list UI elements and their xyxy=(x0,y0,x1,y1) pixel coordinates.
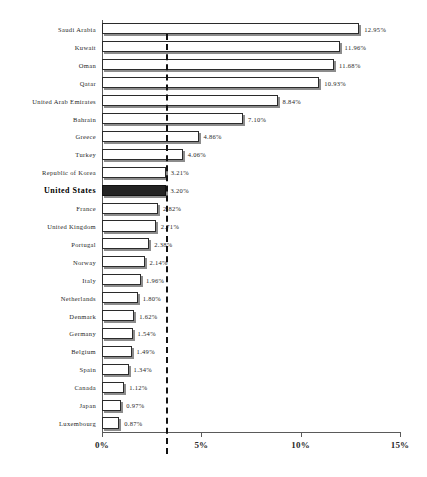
bar-row: Portugal2.38% xyxy=(102,238,400,249)
bar-body xyxy=(102,328,133,339)
bar xyxy=(102,59,334,70)
bar xyxy=(102,23,359,34)
bar xyxy=(102,328,133,339)
bar-body xyxy=(102,203,158,214)
bar-body xyxy=(102,382,124,393)
bar-body xyxy=(102,364,129,375)
bar-value-label: 3.21% xyxy=(171,169,189,176)
category-label: Denmark xyxy=(69,312,96,319)
bar xyxy=(102,400,121,411)
bar-row: Luxembourg0.87% xyxy=(102,417,400,428)
bar xyxy=(102,238,149,249)
bar-body xyxy=(102,238,149,249)
x-axis-tick-label: 15% xyxy=(391,440,410,450)
bar xyxy=(102,220,156,231)
bar-body xyxy=(102,167,166,178)
bar-value-label: 4.06% xyxy=(188,151,206,158)
bar xyxy=(102,185,166,196)
bar xyxy=(102,292,138,303)
bar-value-label: 7.10% xyxy=(248,115,266,122)
bar-value-label: 4.86% xyxy=(204,133,222,140)
bar-body xyxy=(102,23,359,34)
bar-value-label: 1.34% xyxy=(134,366,152,373)
bar xyxy=(102,167,166,178)
bar-value-label: 0.97% xyxy=(126,402,144,409)
bar-row: Japan0.97% xyxy=(102,400,400,411)
bar xyxy=(102,417,119,428)
category-label: Canada xyxy=(74,384,96,391)
category-label: Spain xyxy=(79,366,96,373)
bar-row: Bahrain7.10% xyxy=(102,113,400,124)
bar-body xyxy=(102,77,319,88)
bar-body xyxy=(102,131,199,142)
bar xyxy=(102,382,124,393)
bar-value-label: 11.96% xyxy=(345,43,367,50)
bar-row: Oman11.68% xyxy=(102,59,400,70)
category-label: Belgium xyxy=(71,348,96,355)
bar-body xyxy=(102,59,334,70)
reference-line-dashed xyxy=(166,34,168,454)
category-label: Republic of Korea xyxy=(42,169,96,176)
bar-row: United Kingdom2.71% xyxy=(102,220,400,231)
bar-value-label: 1.49% xyxy=(137,348,155,355)
bar-row: United Arab Emirates8.84% xyxy=(102,95,400,106)
x-axis-line xyxy=(102,432,401,433)
bar-row: Canada1.12% xyxy=(102,382,400,393)
bar-body xyxy=(102,220,156,231)
bar-body xyxy=(102,149,183,160)
x-axis-tick-label: 5% xyxy=(194,440,208,450)
bar-row: Netherlands1.80% xyxy=(102,292,400,303)
bar xyxy=(102,131,199,142)
category-label: France xyxy=(76,205,96,212)
bar-row: United States3.20% xyxy=(102,185,400,196)
bar-row: Germany1.54% xyxy=(102,328,400,339)
bar-row: Kuwait11.96% xyxy=(102,41,400,52)
bar-value-label: 2.71% xyxy=(161,222,179,229)
category-label: Qatar xyxy=(80,79,96,86)
x-axis-tick-label: 0% xyxy=(95,440,109,450)
bar xyxy=(102,113,243,124)
bar-row: Turkey4.06% xyxy=(102,149,400,160)
bar-body xyxy=(102,310,134,321)
bar-body xyxy=(102,113,243,124)
bar-row: Saudi Arabia12.95% xyxy=(102,23,400,34)
category-label: Oman xyxy=(79,61,96,68)
bar-row: France2.82% xyxy=(102,203,400,214)
bar xyxy=(102,41,340,52)
bar-row: Qatar10.93% xyxy=(102,77,400,88)
bar-body xyxy=(102,400,121,411)
category-label: United States xyxy=(44,186,96,195)
bar-value-label: 12.95% xyxy=(364,25,386,32)
bar xyxy=(102,149,183,160)
category-label: Norway xyxy=(73,258,96,265)
x-axis-tick xyxy=(102,432,103,437)
x-axis-tick xyxy=(301,432,302,437)
bar-body xyxy=(102,417,119,428)
bar xyxy=(102,364,129,375)
bar-body xyxy=(102,274,141,285)
category-label: Turkey xyxy=(75,151,96,158)
category-label: Portugal xyxy=(71,240,96,247)
bar-value-label: 1.62% xyxy=(139,312,157,319)
category-label: Bahrain xyxy=(73,115,96,122)
bar-row: Belgium1.49% xyxy=(102,346,400,357)
bar xyxy=(102,95,278,106)
bar-value-label: 8.84% xyxy=(283,97,301,104)
bar-body xyxy=(102,95,278,106)
x-axis-tick-label: 10% xyxy=(291,440,310,450)
bar-value-label: 10.93% xyxy=(324,79,346,86)
bar-value-label: 1.96% xyxy=(146,276,164,283)
category-label: Netherlands xyxy=(61,294,96,301)
bar-row: Republic of Korea3.21% xyxy=(102,167,400,178)
plot-area: Saudi Arabia12.95%Kuwait11.96%Oman11.68%… xyxy=(102,20,400,432)
category-label: Saudi Arabia xyxy=(58,25,96,32)
bar-value-label: 3.20% xyxy=(171,187,189,194)
bar xyxy=(102,203,158,214)
bar-value-label: 1.12% xyxy=(129,384,147,391)
bar-body xyxy=(102,292,138,303)
bar-row: Norway2.14% xyxy=(102,256,400,267)
category-label: Japan xyxy=(79,402,96,409)
bar-body xyxy=(102,41,340,52)
bar xyxy=(102,274,141,285)
category-label: Kuwait xyxy=(75,43,96,50)
